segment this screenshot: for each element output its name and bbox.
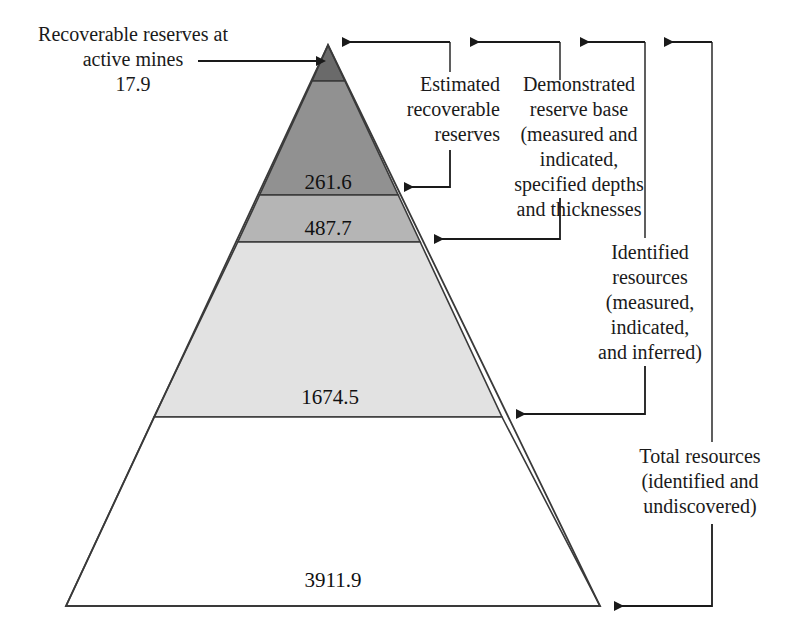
label-total-resources: Total resources (identified and undiscov… <box>612 444 788 519</box>
band-value-demonstrated-reserve-base: 487.7 <box>238 216 418 241</box>
connector-total-lower <box>614 524 712 606</box>
connector-identified-lower <box>516 366 645 414</box>
label-demonstrated-reserve-base: Demonstrated reserve base (measured and … <box>502 72 656 222</box>
band-active-mines <box>312 45 345 81</box>
label-identified-resources: Identified resources (measured, indicate… <box>580 240 720 365</box>
band-value-identified-resources: 1674.5 <box>240 385 420 410</box>
band-value-total-resources: 3911.9 <box>243 568 423 593</box>
band-value-estimated-recoverable-reserves: 261.6 <box>238 170 418 195</box>
pyramid-figure: Recoverable reserves at active mines 17.… <box>0 0 810 638</box>
label-estimated-recoverable-reserves: Estimated recoverable reserves <box>376 72 500 147</box>
label-recoverable-reserves-active-mines: Recoverable reserves at active mines 17.… <box>8 22 258 97</box>
